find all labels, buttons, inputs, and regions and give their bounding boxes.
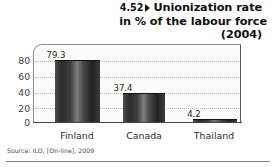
figure-title-line-2: in % of the labour force xyxy=(62,15,268,29)
source-note: Source: ILO, [On-line], 2009 xyxy=(7,147,94,154)
y-tick-40: 40 xyxy=(0,88,30,97)
value-label-finland: 79.3 xyxy=(31,51,81,60)
category-label-thailand: Thailand xyxy=(184,130,244,141)
figure-title-line-3: (2004) xyxy=(62,28,268,42)
right-pointer-icon xyxy=(145,4,150,12)
bar-canada[interactable] xyxy=(123,93,165,124)
y-axis-labels: 80 60 40 20 0 xyxy=(0,44,30,128)
category-label-finland: Finland xyxy=(47,130,107,141)
value-label-canada: 37.4 xyxy=(98,84,148,93)
value-label-thailand: 4.2 xyxy=(169,110,219,119)
figure-container: 4.52Unionization rate in % of the labour… xyxy=(0,0,275,167)
y-tick-0: 0 xyxy=(0,118,30,127)
figure-title: 4.52Unionization rate in % of the labour… xyxy=(62,1,268,42)
y-tick-80: 80 xyxy=(0,56,30,65)
figure-title-text-1: Unionization rate xyxy=(153,1,262,14)
figure-number: 4.52 xyxy=(120,2,144,13)
bar-finland[interactable] xyxy=(55,60,100,124)
x-axis-line xyxy=(33,122,242,123)
y-tick-20: 20 xyxy=(0,104,30,113)
x-axis-labels: Finland Canada Thailand xyxy=(33,130,242,144)
bottom-divider xyxy=(6,161,270,162)
chart-plot-wrapper: 80 60 40 20 0 79.3 37.4 4.2 xyxy=(0,44,275,128)
figure-title-line-1: 4.52Unionization rate xyxy=(62,1,268,15)
category-label-canada: Canada xyxy=(114,130,174,141)
y-tick-60: 60 xyxy=(0,72,30,81)
